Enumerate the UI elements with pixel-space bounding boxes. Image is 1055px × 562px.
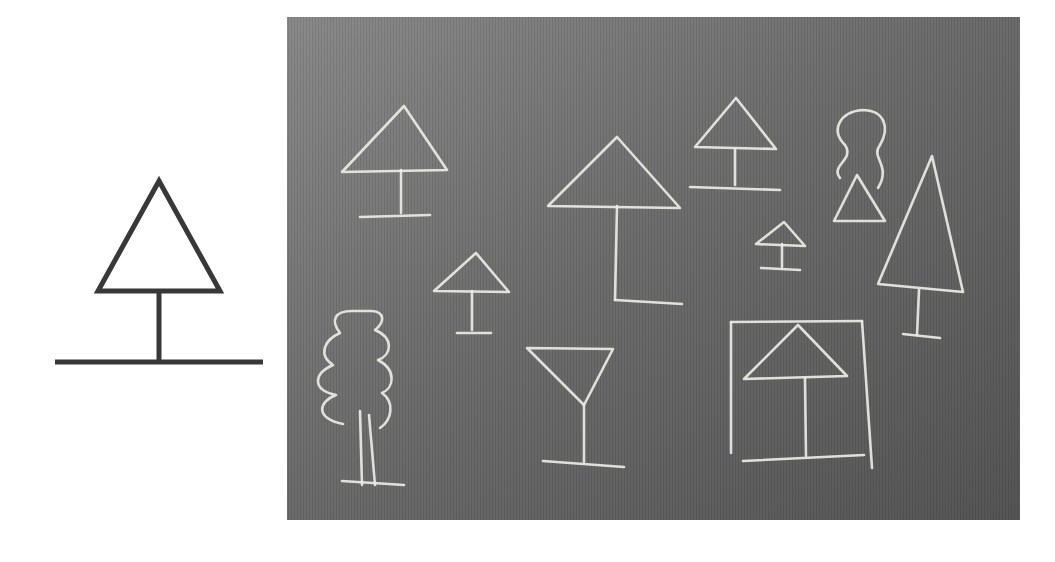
- chalkboard-photo: [287, 17, 1020, 520]
- triangle-crown-icon: [98, 181, 220, 291]
- figure-canvas: [0, 0, 1055, 562]
- reference-tree-symbol: [55, 181, 263, 362]
- chalk-stroke: [805, 378, 806, 456]
- chalkboard-texture: [287, 17, 1020, 520]
- chalk-stroke: [731, 321, 862, 322]
